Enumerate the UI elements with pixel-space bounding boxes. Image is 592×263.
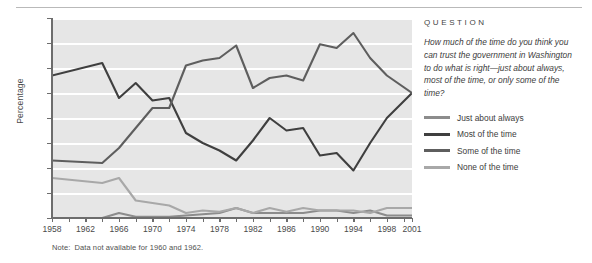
legend-item: Just about always (424, 113, 584, 123)
x-tick-mark (253, 218, 254, 222)
x-tick-mark (303, 218, 304, 222)
x-tick-mark (286, 218, 287, 222)
x-tick-mark (169, 218, 170, 222)
note-label: Note: (52, 243, 70, 252)
series-line (52, 33, 412, 163)
chart-note: Note:Data not available for 1960 and 196… (52, 243, 203, 252)
y-tick-mark (47, 118, 52, 119)
legend-swatch-icon (424, 133, 450, 136)
y-axis-title: Percentage (15, 51, 25, 151)
y-tick-mark (47, 43, 52, 44)
x-tick-label: 1974 (169, 224, 203, 234)
x-tick-label: 1982 (236, 224, 270, 234)
legend-swatch-icon (424, 116, 450, 119)
note-text: Data not available for 1960 and 1962. (74, 243, 203, 252)
x-tick-label: 1990 (303, 224, 337, 234)
x-tick-mark (404, 218, 405, 222)
x-tick-mark (52, 218, 53, 222)
question-panel: QUESTION How much of the time do you thi… (424, 18, 584, 179)
x-tick-mark (270, 218, 271, 222)
trust-in-government-line-chart: Percentage 1020304050607080 195819621966… (0, 0, 430, 263)
y-tick-mark (47, 193, 52, 194)
legend-swatch-icon (424, 166, 450, 169)
x-tick-mark (102, 218, 103, 222)
legend-item: Some of the time (424, 146, 584, 156)
series-line (52, 63, 412, 171)
legend-label: Just about always (457, 113, 524, 123)
x-tick-label: 1962 (68, 224, 102, 234)
x-tick-mark (236, 218, 237, 222)
y-tick-mark (47, 93, 52, 94)
series-line (52, 178, 412, 213)
y-tick-mark (47, 68, 52, 69)
x-tick-mark (412, 218, 413, 222)
legend-item: None of the time (424, 162, 584, 172)
x-tick-mark (119, 218, 120, 222)
x-tick-label: 1986 (269, 224, 303, 234)
y-tick-mark (47, 143, 52, 144)
x-tick-mark (370, 218, 371, 222)
y-tick-mark (47, 168, 52, 169)
x-tick-label: 1958 (35, 224, 69, 234)
question-text: How much of the time do you think you ca… (424, 36, 576, 100)
x-tick-label: 2001 (395, 224, 429, 234)
x-tick-mark (186, 218, 187, 222)
x-tick-mark (69, 218, 70, 222)
legend-label: Most of the time (457, 129, 517, 139)
x-tick-mark (203, 218, 204, 222)
legend-label: None of the time (457, 162, 518, 172)
x-tick-mark (219, 218, 220, 222)
legend: Just about alwaysMost of the timeSome of… (424, 113, 584, 173)
x-tick-mark (136, 218, 137, 222)
y-tick-mark (47, 18, 52, 19)
x-tick-mark (152, 218, 153, 222)
legend-label: Some of the time (457, 146, 520, 156)
series-lines (52, 18, 412, 218)
x-tick-label: 1966 (102, 224, 136, 234)
x-tick-mark (337, 218, 338, 222)
x-tick-label: 1978 (202, 224, 236, 234)
legend-item: Most of the time (424, 129, 584, 139)
x-tick-mark (320, 218, 321, 222)
x-axis-line (51, 217, 412, 219)
legend-swatch-icon (424, 149, 450, 152)
x-tick-label: 1994 (336, 224, 370, 234)
x-tick-mark (387, 218, 388, 222)
question-heading: QUESTION (424, 18, 584, 27)
x-tick-mark (353, 218, 354, 222)
x-tick-mark (85, 218, 86, 222)
x-tick-label: 1970 (135, 224, 169, 234)
